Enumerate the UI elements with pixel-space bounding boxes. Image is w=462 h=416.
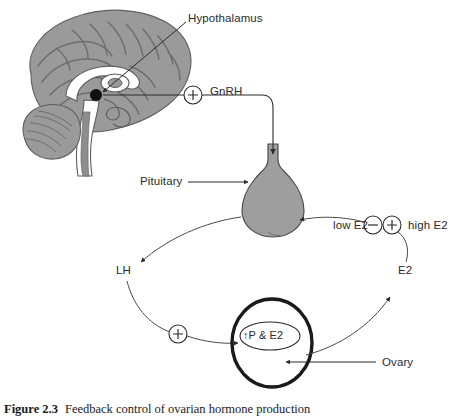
gnrh-arrow-to-pituitary (202, 95, 273, 154)
label-low-e2: low E2 (333, 219, 368, 231)
pituitary-gland (242, 144, 304, 237)
lh-arrow-from-pituitary (141, 217, 241, 262)
e2-feedback-pathway (300, 216, 408, 355)
figure-caption-text: Feedback control of ovarian hormone prod… (65, 402, 310, 416)
brain-illustration (23, 10, 191, 176)
cerebellum (23, 105, 81, 160)
hpo-axis-diagram (0, 0, 462, 416)
label-ovary: Ovary (382, 356, 413, 368)
label-pituitary: Pituitary (140, 175, 182, 187)
figure-number: Figure 2.3 (4, 402, 58, 416)
e2-arrow-from-ovary (306, 297, 390, 355)
hypothalamus-dot (90, 89, 102, 101)
label-high-e2: high E2 (408, 219, 448, 231)
figure-caption: Figure 2.3Feedback control of ovarian ho… (4, 402, 310, 416)
lh-pathway (127, 217, 241, 343)
label-hypothalamus: Hypothalamus (188, 12, 263, 24)
lh-arrow-to-ovary-a (127, 281, 170, 332)
ovary (232, 299, 376, 387)
label-e2: E2 (398, 264, 412, 276)
pituitary-shape (242, 144, 304, 237)
label-lh: LH (116, 264, 131, 276)
figure-page: Hypothalamus GnRH Pituitary LH E2 low E2… (0, 0, 462, 416)
e2-arrow-to-pituitary (398, 232, 408, 262)
label-gnrh: GnRH (210, 85, 242, 97)
label-ovary-contents: ↑P & E2 (243, 329, 283, 341)
